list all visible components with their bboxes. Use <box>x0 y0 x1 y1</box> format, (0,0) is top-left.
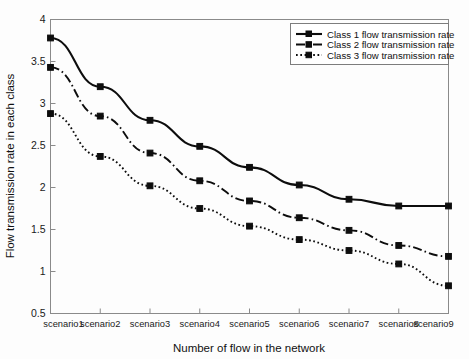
data-point <box>97 84 103 90</box>
y-axis-ticks: 0.511.522.533.54 <box>31 13 56 319</box>
y-tick-label: 3 <box>40 97 46 109</box>
data-point <box>296 182 302 188</box>
data-point <box>197 178 203 184</box>
data-point <box>48 64 54 70</box>
data-point <box>346 196 352 202</box>
y-tick-label: 3.5 <box>31 55 46 67</box>
series-2 <box>48 64 452 259</box>
legend-label-class-3: Class 3 flow transmission rate <box>327 50 454 61</box>
x-tick-label: scenario3 <box>130 319 170 329</box>
data-point <box>247 223 253 229</box>
legend: Class 1 flow transmission rate Class 2 f… <box>291 24 455 65</box>
data-point <box>147 117 153 123</box>
data-point <box>147 150 153 156</box>
x-tick-label: scenario9 <box>413 319 453 329</box>
data-point <box>48 35 54 41</box>
series-layer <box>48 35 452 289</box>
data-point <box>147 183 153 189</box>
data-point <box>346 227 352 233</box>
legend-label-class-2: Class 2 flow transmission rate <box>327 39 454 50</box>
legend-marker-class-2 <box>306 42 312 48</box>
legend-marker-class-3 <box>306 52 312 58</box>
data-point <box>296 237 302 243</box>
x-tick-label: scenario1 <box>43 319 83 329</box>
chart-figure: 0.511.522.533.54 scenario1scenario2scena… <box>0 0 469 359</box>
data-point <box>48 111 54 117</box>
data-point <box>396 261 402 267</box>
y-tick-label: 4 <box>40 13 46 25</box>
data-point <box>446 283 452 289</box>
y-tick-label: 2.5 <box>31 139 46 151</box>
y-tick-label: 1.5 <box>31 223 46 235</box>
x-tick-label: scenario4 <box>180 319 220 329</box>
x-tick-label: scenario2 <box>80 319 120 329</box>
x-tick-label: scenario7 <box>329 319 369 329</box>
data-point <box>346 248 352 254</box>
data-point <box>446 253 452 259</box>
x-axis-title: Number of flow in the network <box>173 342 325 354</box>
data-point <box>247 164 253 170</box>
data-point <box>197 206 203 212</box>
data-point <box>197 143 203 149</box>
y-tick-label: 1 <box>40 265 46 277</box>
data-point <box>396 243 402 249</box>
y-tick-label: 2 <box>40 181 46 193</box>
y-tick-label: 0.5 <box>31 307 46 319</box>
x-tick-label: scenario5 <box>229 319 269 329</box>
x-tick-label: scenario6 <box>279 319 319 329</box>
data-point <box>97 154 103 160</box>
data-point <box>396 203 402 209</box>
data-point <box>97 113 103 119</box>
data-point <box>296 215 302 221</box>
legend-marker-class-1 <box>306 31 312 37</box>
data-point <box>446 203 452 209</box>
line-chart-canvas: 0.511.522.533.54 scenario1scenario2scena… <box>0 0 469 359</box>
data-point <box>247 198 253 204</box>
legend-label-class-1: Class 1 flow transmission rate <box>327 29 454 40</box>
x-axis-ticks: scenario1scenario2scenario3scenario4scen… <box>43 309 453 329</box>
y-axis-title: Flow transmission rate in each class <box>4 73 16 258</box>
